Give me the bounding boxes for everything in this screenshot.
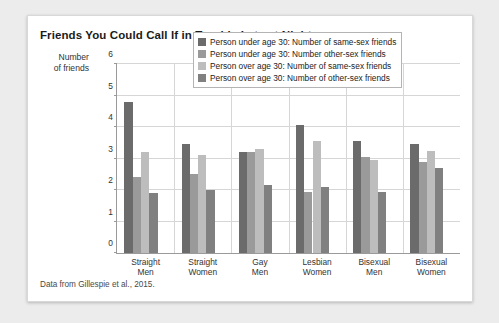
- x-axis-category-label-line: Men: [131, 267, 160, 277]
- bar: [206, 190, 214, 253]
- x-axis-category-label: GayMen: [252, 257, 268, 277]
- y-axis-title-line-1: Number: [31, 52, 89, 63]
- bar: [313, 141, 321, 253]
- bar: [378, 192, 386, 253]
- x-axis-category-label: BisexualMen: [358, 257, 390, 277]
- plot-area: 0123456StraightMenStraightWomenGayMenLes…: [116, 64, 460, 254]
- x-axis-category-label: LesbianWomen: [302, 257, 331, 277]
- bar-group: BisexualMen: [346, 64, 403, 253]
- x-axis-category-label-line: Lesbian: [302, 257, 331, 267]
- chart-card: Friends You Could Call If in Trouble Lat…: [27, 15, 473, 302]
- bar: [239, 152, 247, 253]
- chart-legend: Person under age 30: Number of same-sex …: [193, 32, 402, 88]
- source-note: Data from Gillespie et al., 2015.: [40, 280, 155, 289]
- legend-label: Person over age 30: Number of same-sex f…: [210, 61, 391, 71]
- x-axis-category-label-line: Men: [252, 267, 268, 277]
- x-axis-category-label-line: Women: [416, 267, 448, 277]
- bar: [410, 144, 418, 253]
- legend-item: Person under age 30: Number of same-sex …: [198, 36, 396, 48]
- legend-swatch: [198, 38, 206, 46]
- y-axis-tick-label: 5: [108, 81, 113, 91]
- x-axis-category-label: StraightMen: [131, 257, 160, 277]
- bar: [264, 185, 272, 253]
- legend-label: Person under age 30: Number other-sex fr…: [210, 49, 386, 59]
- legend-label: Person over age 30: Number of other-sex …: [210, 73, 390, 83]
- bar-group: GayMen: [231, 64, 288, 253]
- legend-item: Person over age 30: Number of other-sex …: [198, 72, 396, 84]
- x-axis-category-label-line: Bisexual: [416, 257, 448, 267]
- legend-item: Person under age 30: Number other-sex fr…: [198, 48, 396, 60]
- bar: [419, 162, 427, 253]
- bar: [353, 141, 361, 253]
- bar-group: LesbianWomen: [289, 64, 346, 253]
- y-axis-tick-label: 3: [108, 144, 113, 154]
- bar-group: StraightWomen: [174, 64, 231, 253]
- y-axis-tick-label: 1: [108, 207, 113, 217]
- legend-swatch: [198, 62, 206, 70]
- bar: [255, 149, 263, 253]
- chart-plot: 0123456StraightMenStraightWomenGayMenLes…: [90, 58, 460, 272]
- bar: [370, 160, 378, 253]
- x-axis-category-label: StraightWomen: [188, 257, 217, 277]
- bar: [190, 174, 198, 253]
- y-axis-tick-label: 0: [108, 238, 113, 248]
- legend-swatch: [198, 50, 206, 58]
- x-axis-category-label-line: Women: [302, 267, 331, 277]
- x-axis-category-label-line: Gay: [252, 257, 268, 267]
- x-axis-category-label-line: Women: [188, 267, 217, 277]
- y-axis-tick-label: 2: [108, 175, 113, 185]
- bar: [182, 144, 190, 253]
- bar: [296, 125, 304, 253]
- bar: [149, 193, 157, 253]
- bar: [321, 187, 329, 253]
- bar: [124, 102, 132, 253]
- bar: [427, 151, 435, 253]
- y-axis-title: Number of friends: [31, 52, 89, 73]
- bar: [435, 168, 443, 253]
- x-axis-category-label: BisexualWomen: [416, 257, 448, 277]
- bar: [133, 177, 141, 253]
- bar: [141, 152, 149, 253]
- x-axis-category-label-line: Straight: [131, 257, 160, 267]
- bar: [247, 152, 255, 253]
- y-axis-tick-label: 6: [108, 49, 113, 59]
- bar: [198, 155, 206, 253]
- bar-group: StraightMen: [117, 64, 174, 253]
- x-axis-category-label-line: Straight: [188, 257, 217, 267]
- legend-label: Person under age 30: Number of same-sex …: [210, 37, 396, 47]
- bar: [361, 157, 369, 253]
- legend-item: Person over age 30: Number of same-sex f…: [198, 60, 396, 72]
- y-axis-title-line-2: of friends: [31, 63, 89, 74]
- x-axis-category-label-line: Men: [358, 267, 390, 277]
- bar: [304, 192, 312, 253]
- x-axis-category-label-line: Bisexual: [358, 257, 390, 267]
- y-axis-tick-label: 4: [108, 112, 113, 122]
- bar-group: BisexualWomen: [403, 64, 460, 253]
- legend-swatch: [198, 74, 206, 82]
